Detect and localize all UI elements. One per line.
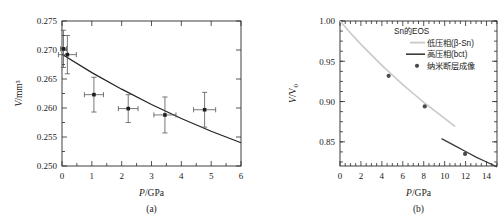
x-tick-label-b: 10: [440, 171, 450, 181]
y-tick-label-b: 1.00: [319, 16, 335, 26]
errorbar-point-a: [58, 36, 76, 74]
legend-b: Sn的EOS低压相(β-Sn)高压相(bct)纳米断层成像: [394, 26, 475, 71]
y-tick-label-a: 0.265: [37, 74, 58, 84]
x-tick-label-b: 8: [421, 171, 426, 181]
panel-b-plot: 024681012140.850.900.951.00Sn的EOS低压相(β-S…: [252, 0, 504, 221]
y-tick-label-b: 0.90: [319, 97, 335, 107]
x-tick-label-a: 1: [90, 171, 95, 181]
y-tick-label-a: 0.270: [37, 45, 58, 55]
data-marker-a: [203, 108, 207, 112]
legend-title: Sn的EOS: [394, 26, 430, 36]
legend-label-tomography: 纳米断层成像: [427, 61, 475, 71]
x-axis-title-b: P/GPa: [405, 188, 432, 198]
legend-label-high-pressure: 高压相(bct): [427, 49, 468, 59]
x-tick-label-b: 14: [482, 171, 492, 181]
x-axis-title-a: P/GPa: [138, 188, 165, 198]
data-points-b: [387, 74, 468, 156]
errorbar-point-a: [194, 92, 216, 127]
x-tick-label-a: 2: [119, 171, 124, 181]
panel-b: 024681012140.850.900.951.00Sn的EOS低压相(β-S…: [252, 0, 504, 221]
panel-caption-a: (a): [146, 204, 157, 215]
x-tick-label-b: 6: [401, 171, 406, 181]
errorbar-point-a: [154, 97, 176, 133]
low-pressure-curve-b: [340, 21, 455, 127]
x-tick-label-a: 4: [179, 171, 184, 181]
y-axis-title-b: V/V0: [288, 84, 300, 103]
legend-swatch-tomography: [415, 64, 419, 68]
plot-frame-a: [62, 21, 241, 166]
y-tick-label-a: 0.250: [37, 161, 58, 171]
x-tick-label-a: 3: [149, 171, 154, 181]
x-tick-label-a: 6: [239, 171, 244, 181]
x-tick-label-b: 2: [359, 171, 364, 181]
x-tick-label-a: 5: [209, 171, 214, 181]
panel-a-plot: 01234560.2500.2550.2600.2650.2700.275P/G…: [0, 0, 252, 221]
data-marker-b: [387, 74, 391, 78]
data-marker-a: [126, 107, 130, 111]
x-tick-label-a: 0: [60, 171, 65, 181]
x-tick-label-b: 0: [338, 171, 343, 181]
data-marker-b: [423, 104, 427, 108]
errorbar-point-a: [84, 77, 103, 112]
data-marker-a: [92, 93, 96, 97]
data-marker-a: [163, 113, 167, 117]
figure-container: 01234560.2500.2550.2600.2650.2700.275P/G…: [0, 0, 504, 221]
data-marker-a: [62, 47, 66, 51]
panel-caption-b: (b): [413, 204, 424, 215]
eos-fit-line-a: [62, 54, 241, 142]
errorbar-point-a: [118, 95, 138, 123]
y-axis-title-a: V/mm³: [14, 80, 24, 106]
high-pressure-curve-b: [442, 139, 497, 167]
data-marker-a: [66, 53, 70, 57]
y-tick-label-a: 0.260: [37, 103, 58, 113]
data-points-a: [58, 30, 215, 133]
x-tick-label-b: 12: [461, 171, 470, 181]
data-marker-b: [463, 152, 467, 156]
legend-label-low-pressure: 低压相(β-Sn): [427, 38, 474, 48]
panel-a: 01234560.2500.2550.2600.2650.2700.275P/G…: [0, 0, 252, 221]
panel-a-axes: 01234560.2500.2550.2600.2650.2700.275: [37, 16, 244, 181]
y-tick-label-a: 0.255: [37, 132, 58, 142]
x-tick-label-b: 4: [380, 171, 385, 181]
y-tick-label-a: 0.275: [37, 16, 58, 26]
y-tick-label-b: 0.95: [319, 57, 335, 67]
y-tick-label-b: 0.85: [319, 137, 335, 147]
